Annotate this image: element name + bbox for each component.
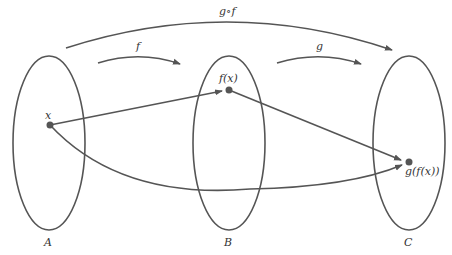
set-c-ellipse	[373, 56, 445, 230]
g-label: g	[316, 40, 323, 53]
gfx-label: g(f(x))	[405, 165, 439, 178]
fx-label: f(x)	[219, 72, 238, 85]
f-arrow	[98, 57, 180, 64]
set-a-label: A	[44, 236, 52, 249]
g-arrow	[277, 57, 361, 64]
point-x	[47, 122, 54, 129]
composition-diagram	[0, 0, 452, 255]
x-label: x	[45, 109, 51, 122]
set-a-ellipse	[13, 56, 85, 230]
fx-to-gfx-arrow	[229, 90, 401, 160]
point-fx	[226, 87, 233, 94]
f-label: f	[136, 40, 140, 53]
set-b-label: B	[224, 236, 232, 249]
set-c-label: C	[404, 236, 412, 249]
composite-label: g∘f	[219, 5, 236, 18]
composite-arrow	[66, 22, 392, 50]
x-to-gfx-arrow	[50, 125, 402, 190]
